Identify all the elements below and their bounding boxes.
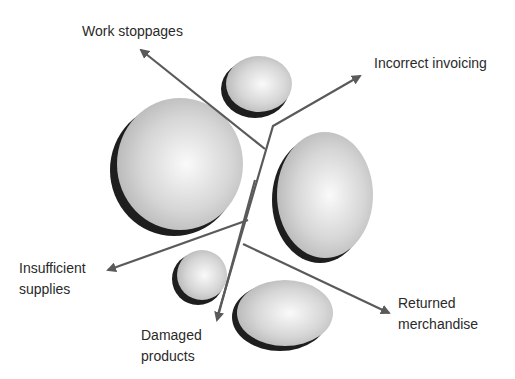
label-incorrect-invoicing: Incorrect invoicing [374, 54, 487, 72]
label-insufficient-supplies: Insufficient supplies [19, 258, 86, 300]
sphere-bottom-oval [232, 280, 333, 351]
sphere-large-left [110, 98, 243, 236]
sphere-top-small [221, 56, 292, 118]
sphere-right-oval [272, 132, 373, 263]
label-work-stoppages: Work stoppages [82, 22, 183, 40]
sphere-small-bottom [172, 250, 227, 305]
label-damaged-products: Damaged products [141, 325, 202, 367]
label-returned-merchandise: Returned merchandise [398, 293, 478, 335]
